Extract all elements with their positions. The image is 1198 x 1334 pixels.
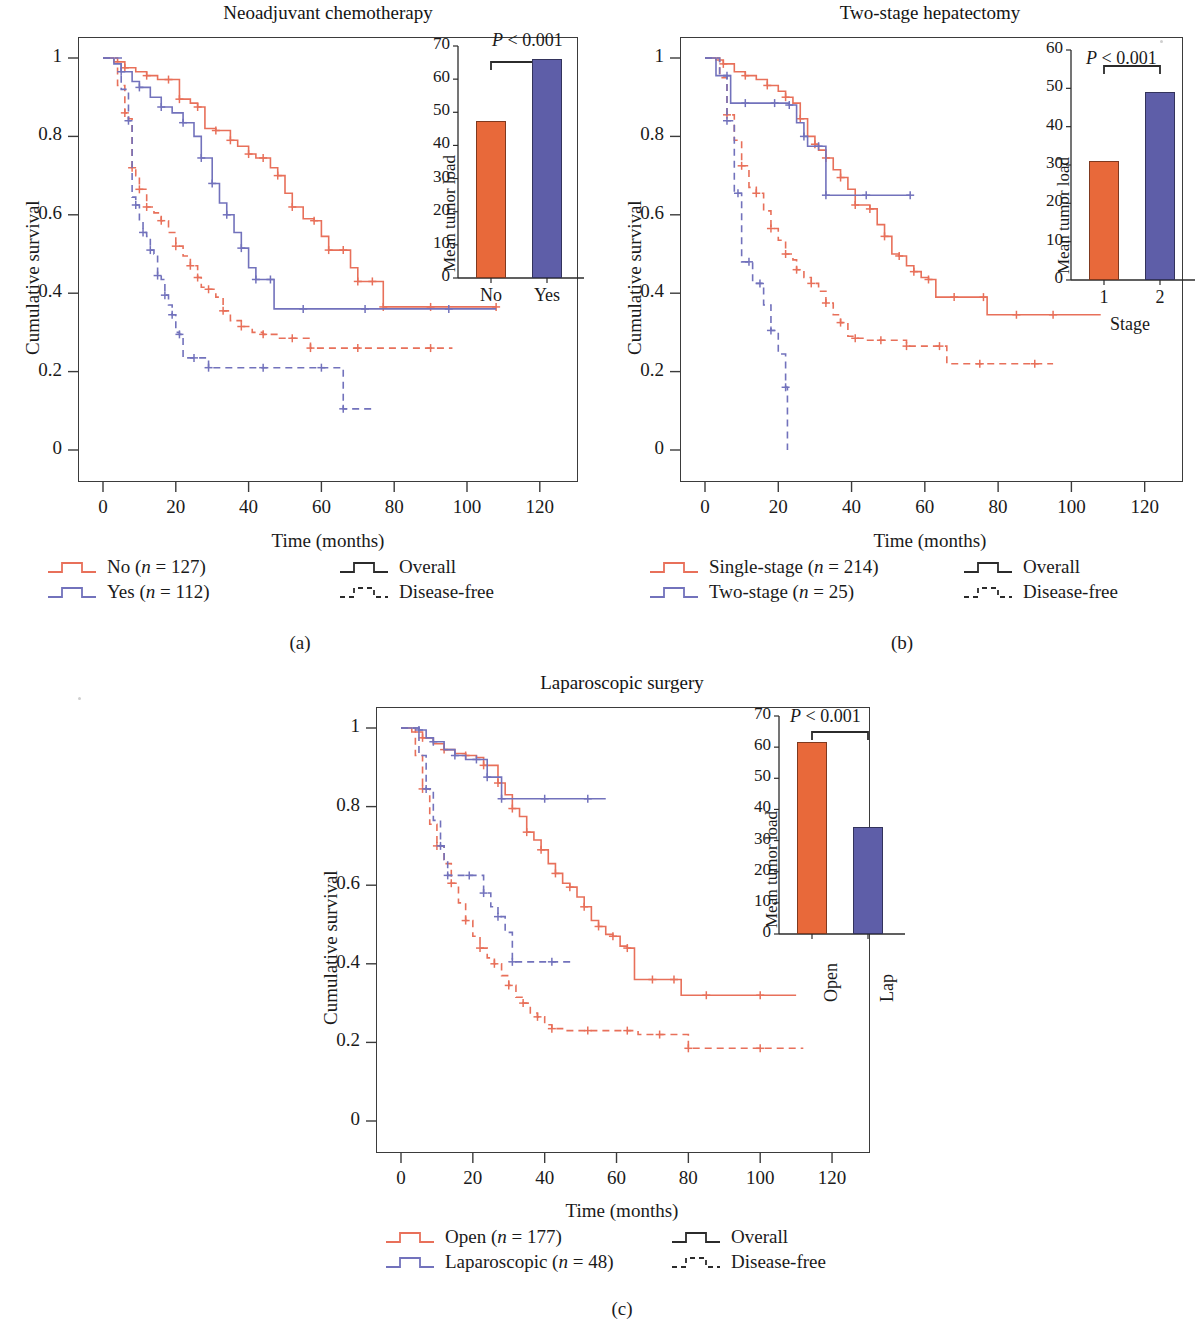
p-value-label: P < 0.001	[790, 706, 861, 727]
panel-c: Laparoscopic surgery02040608010012010.80…	[0, 0, 1198, 1334]
y-tick-label: 1	[286, 715, 360, 737]
legend-item[interactable]: Disease-free	[670, 1251, 826, 1273]
panel-title: Laparoscopic surgery	[372, 672, 872, 694]
legend-key-icon	[670, 1253, 722, 1271]
legend-item[interactable]: Laparoscopic (n = 48)	[384, 1251, 613, 1273]
y-tick-label: 0.8	[286, 794, 360, 816]
legend-key-icon	[670, 1228, 722, 1246]
plot-area	[376, 707, 870, 1153]
y-tick-label: 0.2	[286, 1029, 360, 1051]
legend-styles: OverallDisease-free	[670, 1226, 826, 1276]
x-tick-label: 120	[802, 1167, 862, 1189]
legend-step-line-icon	[384, 1253, 436, 1271]
inset-y-tick-label: 60	[713, 735, 771, 755]
legend-item[interactable]: Overall	[670, 1226, 826, 1248]
legend-solid-step-icon	[670, 1228, 722, 1246]
scan-artifact	[1160, 40, 1163, 43]
legend-label: Open (n = 177)	[445, 1226, 562, 1248]
inset-y-tick-label: 70	[713, 704, 771, 724]
x-tick-label: 100	[730, 1167, 790, 1189]
x-axis-label: Time (months)	[472, 1200, 772, 1222]
legend-key-icon	[384, 1253, 436, 1271]
x-tick-label: 0	[371, 1167, 431, 1189]
x-tick-label: 20	[443, 1167, 503, 1189]
panel-letter: (c)	[582, 1298, 662, 1320]
x-tick-label: 60	[587, 1167, 647, 1189]
legend-key-icon	[384, 1228, 436, 1246]
legend-groups: Open (n = 177)Laparoscopic (n = 48)	[384, 1226, 613, 1276]
x-tick-label: 80	[658, 1167, 718, 1189]
legend-dashed-step-icon	[670, 1253, 722, 1271]
x-tick-label: 40	[515, 1167, 575, 1189]
inset-category-label: Open	[821, 963, 842, 1002]
inset-y-tick-label: 50	[713, 766, 771, 786]
scan-artifact	[78, 697, 81, 700]
legend-item[interactable]: Open (n = 177)	[384, 1226, 613, 1248]
inset-y-axis-label: Mean tumor load	[762, 811, 782, 928]
inset-category-label: Lap	[877, 974, 898, 1002]
inset-bar	[853, 827, 883, 934]
y-axis-label: Cumulative survival	[320, 870, 342, 1025]
legend-label: Disease-free	[731, 1251, 826, 1273]
legend-label: Laparoscopic (n = 48)	[445, 1251, 613, 1273]
inset-bar	[797, 742, 827, 934]
y-tick-label: 0	[286, 1108, 360, 1130]
legend-label: Overall	[731, 1226, 788, 1248]
legend-step-line-icon	[384, 1228, 436, 1246]
